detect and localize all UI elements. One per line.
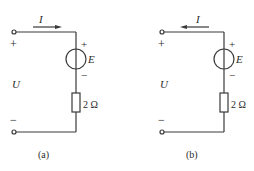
voltage-label-b: U — [160, 78, 169, 90]
top-terminal — [12, 30, 16, 34]
voltage-label-a: U — [12, 78, 21, 90]
circuit-b — [160, 25, 234, 134]
terminal-plus-a: + — [10, 37, 17, 51]
source-label-b: E — [235, 53, 243, 65]
top-terminal — [160, 30, 164, 34]
circuit-figure: I + U − + E − 2 Ω (a) I + U − + E − 2 Ω … — [0, 0, 254, 171]
resistor-icon — [220, 93, 228, 112]
arrow-head-left-icon — [180, 25, 187, 29]
current-label-b: I — [195, 13, 201, 25]
terminal-plus-b: + — [158, 37, 165, 51]
source-minus-b: − — [229, 69, 235, 81]
circuit-a — [12, 25, 86, 134]
terminal-minus-a: − — [10, 113, 17, 127]
arrow-head-right-icon — [55, 25, 62, 29]
bottom-terminal — [160, 130, 164, 134]
source-plus-a: + — [81, 38, 87, 50]
caption-a: (a) — [38, 149, 49, 161]
resistor-icon — [72, 93, 80, 112]
bottom-terminal — [12, 130, 16, 134]
source-minus-a: − — [81, 69, 87, 81]
source-plus-b: + — [229, 38, 235, 50]
resistor-label-a: 2 Ω — [83, 99, 98, 110]
current-label-a: I — [38, 13, 44, 25]
caption-b: (b) — [186, 149, 198, 161]
resistor-label-b: 2 Ω — [231, 99, 246, 110]
terminal-minus-b: − — [158, 113, 165, 127]
source-label-a: E — [87, 53, 95, 65]
